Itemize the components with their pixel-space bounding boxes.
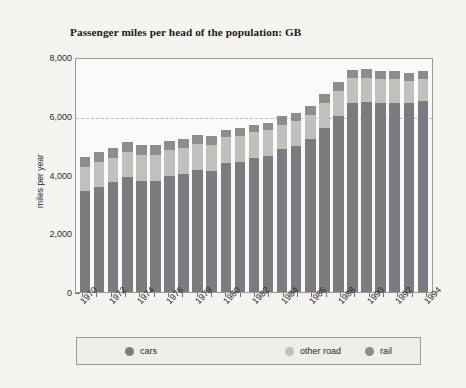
bar-column[interactable] [205, 59, 219, 292]
bar-segment-other-road [122, 152, 133, 177]
bar-stack [277, 116, 288, 292]
bar-segment-cars [347, 103, 358, 292]
bar-column[interactable] [120, 59, 134, 292]
bar-column[interactable] [289, 59, 303, 292]
bar-stack [404, 73, 415, 292]
bar-segment-cars [277, 149, 288, 292]
bar-column[interactable] [388, 59, 402, 292]
bar-segment-cars [150, 181, 161, 292]
bar-segment-other-road [94, 162, 105, 187]
bar-column[interactable] [106, 59, 120, 292]
bar-segment-cars [375, 103, 386, 292]
x-tick-mark [383, 293, 384, 297]
bar-segment-rail [389, 71, 400, 79]
y-tick-label: 2,000 [20, 229, 72, 239]
bar-stack [192, 135, 203, 292]
bar-segment-cars [235, 162, 246, 292]
x-tick-mark [182, 293, 183, 297]
bar-stack [178, 139, 189, 292]
x-tick-mark [240, 293, 241, 297]
bar-stack [94, 152, 105, 292]
legend-label: cars [140, 346, 157, 356]
legend-swatch-circle-icon [285, 347, 294, 356]
bar-segment-other-road [178, 148, 189, 174]
bar-column[interactable] [360, 59, 374, 292]
x-tick-mark [354, 293, 355, 297]
bar-segment-rail [319, 94, 330, 103]
bar-segment-cars [333, 116, 344, 292]
legend-item-cars[interactable]: cars [125, 346, 157, 356]
bar-column[interactable] [191, 59, 205, 292]
bar-segment-other-road [305, 115, 316, 139]
bar-segment-rail [164, 141, 175, 150]
bar-segment-other-road [333, 91, 344, 116]
bar-column[interactable] [148, 59, 162, 292]
bar-column[interactable] [162, 59, 176, 292]
bar-column[interactable] [177, 59, 191, 292]
bar-column[interactable] [275, 59, 289, 292]
bar-stack [80, 157, 91, 292]
bar-column[interactable] [303, 59, 317, 292]
bar-stack [249, 125, 260, 292]
bar-column[interactable] [233, 59, 247, 292]
bar-segment-other-road [249, 132, 260, 158]
bar-segment-other-road [361, 78, 372, 102]
bar-segment-cars [389, 103, 400, 292]
bar-stack [291, 113, 302, 292]
bar-column[interactable] [374, 59, 388, 292]
bar-segment-rail [404, 73, 415, 81]
bar-segment-rail [347, 70, 358, 79]
bar-segment-other-road [164, 150, 175, 176]
bar-segment-rail [361, 69, 372, 78]
bar-segment-rail [206, 136, 217, 145]
bar-column[interactable] [92, 59, 106, 292]
x-tick-mark [268, 293, 269, 297]
legend-label: other road [300, 346, 341, 356]
bar-stack [389, 71, 400, 292]
chart-legend: carsother roadrail [76, 337, 421, 365]
bar-segment-cars [192, 170, 203, 292]
bar-column[interactable] [134, 59, 148, 292]
legend-item-rail[interactable]: rail [365, 346, 392, 356]
legend-label: rail [380, 346, 392, 356]
bar-column[interactable] [317, 59, 331, 292]
bar-column[interactable] [219, 59, 233, 292]
bar-segment-cars [178, 174, 189, 292]
bar-segment-other-road [418, 79, 429, 101]
bar-segment-cars [263, 156, 274, 292]
bar-segment-cars [80, 191, 91, 292]
bar-column[interactable] [402, 59, 416, 292]
plot-area [75, 58, 433, 293]
bar-stack [319, 94, 330, 292]
bar-column[interactable] [78, 59, 92, 292]
bar-column[interactable] [331, 59, 345, 292]
bar-segment-other-road [235, 136, 246, 162]
bar-column[interactable] [261, 59, 275, 292]
bar-segment-rail [375, 71, 386, 80]
bar-stack [235, 128, 246, 292]
bar-segment-cars [221, 163, 232, 292]
legend-swatch-circle-icon [125, 347, 134, 356]
legend-item-other-road[interactable]: other road [285, 346, 341, 356]
bar-segment-rail [136, 145, 147, 155]
bar-segment-rail [150, 145, 161, 155]
legend-swatch-circle-icon [365, 347, 374, 356]
bar-column[interactable] [345, 59, 359, 292]
bar-segment-cars [94, 187, 105, 292]
y-tick-label: 8,000 [20, 53, 72, 63]
bar-column[interactable] [247, 59, 261, 292]
bar-segment-rail [108, 148, 119, 158]
bar-column[interactable] [416, 59, 430, 292]
bar-segment-rail [291, 113, 302, 122]
page-title: Passenger miles per head of the populati… [70, 26, 301, 38]
y-tick-label: 4,000 [20, 171, 72, 181]
bar-stack [263, 123, 274, 292]
bar-segment-cars [305, 139, 316, 292]
x-tick-mark [154, 293, 155, 297]
bar-stack [361, 69, 372, 292]
bar-segment-other-road [375, 79, 386, 103]
bar-stack [164, 141, 175, 292]
chart-figure: Passenger miles per head of the populati… [0, 0, 466, 388]
x-tick-mark [211, 293, 212, 297]
bar-stack [136, 145, 147, 292]
